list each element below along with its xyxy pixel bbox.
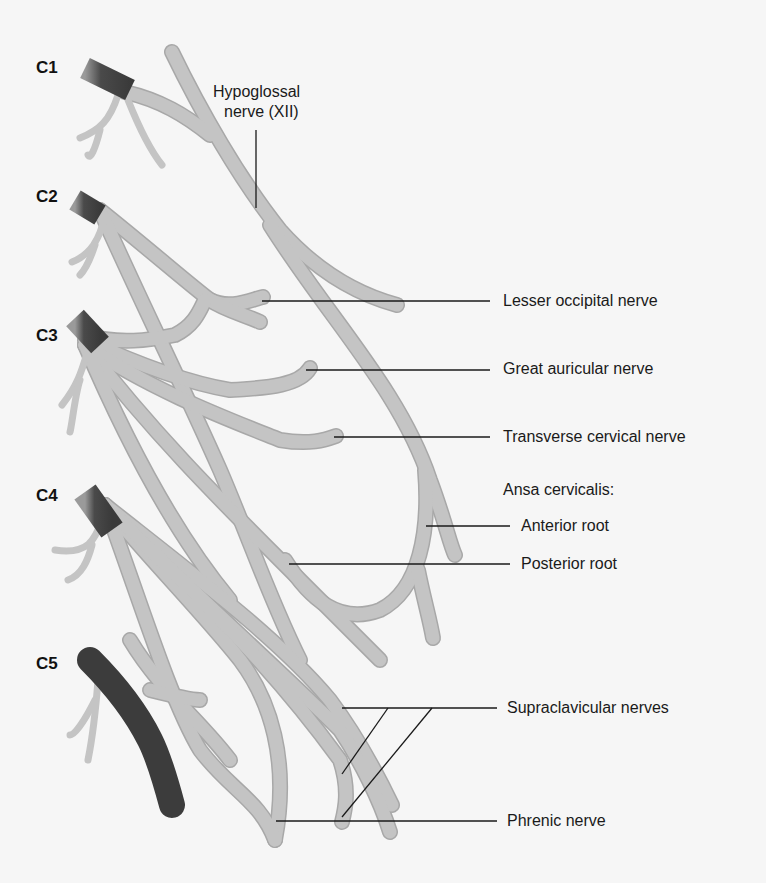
label-transverse-cervical: Transverse cervical nerve: [503, 428, 686, 446]
root-c2: [75, 200, 100, 215]
label-ansa-cervicalis: Ansa cervicalis:: [503, 481, 614, 499]
segment-label-c2: C2: [36, 188, 58, 206]
root-c1: [85, 68, 130, 90]
segment-label-c3: C3: [36, 327, 58, 345]
label-anterior-root: Anterior root: [521, 517, 609, 535]
label-lesser-occipital: Lesser occipital nerve: [503, 292, 658, 310]
label-phrenic: Phrenic nerve: [507, 812, 606, 830]
label-hypoglossal-line2: nerve (XII): [224, 103, 299, 121]
label-great-auricular: Great auricular nerve: [503, 360, 653, 378]
segment-label-c5: C5: [36, 655, 58, 673]
nerve-network: [55, 52, 455, 840]
segment-label-c4: C4: [36, 487, 58, 505]
label-posterior-root: Posterior root: [521, 555, 617, 573]
label-supraclavicular: Supraclavicular nerves: [507, 699, 669, 717]
label-hypoglossal-line1: Hypoglossal: [213, 83, 300, 101]
segment-label-c1: C1: [36, 59, 58, 77]
